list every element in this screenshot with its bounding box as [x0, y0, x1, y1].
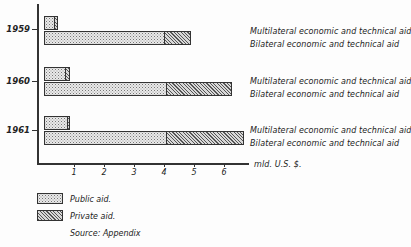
y-tick — [32, 81, 38, 82]
year-label-1959: 1959 — [2, 24, 30, 34]
label-1961-multilateral: Multilateral economic and technical aid — [250, 126, 411, 135]
segment-public — [45, 132, 166, 144]
x-tick-label: 2 — [97, 168, 111, 177]
segment-private — [54, 17, 57, 29]
segment-public — [45, 68, 65, 80]
year-label-1961: 1961 — [2, 125, 30, 135]
y-axis — [37, 4, 39, 164]
bar-1959-multilateral — [44, 16, 58, 30]
x-axis-unit: mld. U.S. $. — [254, 160, 302, 169]
segment-private — [164, 32, 190, 44]
segment-private — [166, 83, 231, 95]
label-1960-multilateral: Multilateral economic and technical aid — [250, 77, 411, 86]
x-tick — [104, 163, 105, 167]
segment-public — [45, 32, 164, 44]
x-tick-label: 4 — [157, 168, 171, 177]
x-axis — [37, 163, 249, 165]
x-tick — [134, 163, 135, 167]
label-1959-bilateral: Bilateral economic and technical aid — [250, 40, 399, 49]
x-tick-label: 6 — [217, 168, 231, 177]
x-tick — [74, 163, 75, 167]
y-tick — [32, 29, 38, 30]
legend-label-public: Public aid. — [70, 195, 111, 204]
label-1961-bilateral: Bilateral economic and technical aid — [250, 139, 399, 148]
legend-label-private: Private aid. — [70, 212, 115, 221]
bar-1959-bilateral — [44, 31, 191, 45]
x-tick-label: 5 — [187, 168, 201, 177]
bar-1961-bilateral — [44, 131, 244, 145]
y-tick — [32, 130, 38, 131]
bar-1960-multilateral — [44, 67, 70, 81]
bar-1960-bilateral — [44, 82, 232, 96]
segment-public — [45, 17, 54, 29]
legend-swatch-private — [37, 210, 63, 221]
bar-1961-multilateral — [44, 116, 70, 130]
segment-private — [67, 117, 69, 129]
label-1959-multilateral: Multilateral economic and technical aid — [250, 27, 411, 36]
x-tick — [194, 163, 195, 167]
segment-private — [166, 132, 243, 144]
segment-public — [45, 83, 166, 95]
segment-public — [45, 117, 67, 129]
source-note: Source: Appendix — [70, 229, 141, 238]
x-tick — [164, 163, 165, 167]
x-tick-label: 1 — [67, 168, 81, 177]
legend-swatch-public — [37, 193, 63, 204]
x-tick — [224, 163, 225, 167]
year-label-1960: 1960 — [2, 76, 30, 86]
segment-private — [65, 68, 69, 80]
x-tick-label: 3 — [127, 168, 141, 177]
label-1960-bilateral: Bilateral economic and technical aid — [250, 90, 399, 99]
